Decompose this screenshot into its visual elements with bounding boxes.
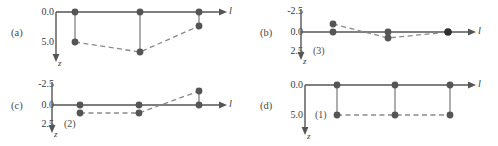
panel-a: (a) 0.0 5.0 l z (0, 0, 249, 73)
panel-c-surface-marker (77, 102, 84, 109)
panel-a-surface-marker (72, 9, 79, 16)
panel-b-y-arrow-icon (298, 52, 305, 60)
panel-d-x-arrow-icon (468, 82, 476, 89)
panel-d-profile-marker (334, 112, 341, 119)
panel-d-surface-marker (447, 82, 454, 89)
panel-a-profile-line (75, 26, 199, 52)
panel-a-surface-marker (196, 9, 203, 16)
panel-d-plot (249, 73, 498, 146)
panel-a-x-arrow-icon (219, 9, 227, 16)
panel-d-surface-marker (334, 82, 341, 89)
panel-c-x-arrow-icon (219, 102, 227, 109)
panel-d-surface-marker (392, 82, 399, 89)
panel-a-profile-marker (196, 23, 203, 30)
panel-b-surface-marker (330, 29, 337, 36)
panel-b-surface-marker (444, 28, 452, 36)
panel-a-surface-marker (137, 9, 144, 16)
figure-canvas: (a) 0.0 5.0 l z (b) (0, 0, 498, 146)
panel-c-surface-marker (196, 102, 203, 109)
panel-c-y-arrow-icon (49, 125, 56, 133)
panel-a-profile-marker (137, 49, 144, 56)
panel-b-profile-marker (330, 21, 337, 28)
panel-c-plot (0, 73, 249, 146)
panel-b-x-arrow-icon (468, 29, 476, 36)
panel-d-y-arrow-icon (302, 127, 309, 135)
panel-a-plot (0, 0, 249, 73)
panel-a-profile-marker (72, 39, 79, 46)
panel-d: (d) 0.0 5.0 (1) l z (249, 73, 498, 146)
panel-b-profile-marker (385, 35, 392, 42)
panel-b-surface-marker (385, 29, 392, 36)
panel-a-y-arrow-icon (53, 54, 60, 62)
panel-d-profile-marker (447, 112, 454, 119)
panel-b-plot (249, 0, 498, 73)
panel-b: (b) -2.5 0.0 2.5 (3) l z (249, 0, 498, 73)
panel-c-surface-marker (136, 102, 143, 109)
panel-c: (c) -2.5 0.0 2.5 (2) l z (0, 73, 249, 146)
panel-c-profile-marker (196, 88, 203, 95)
panel-c-profile-marker (77, 110, 84, 117)
panel-d-profile-marker (392, 112, 399, 119)
panel-c-profile-marker (136, 110, 143, 117)
